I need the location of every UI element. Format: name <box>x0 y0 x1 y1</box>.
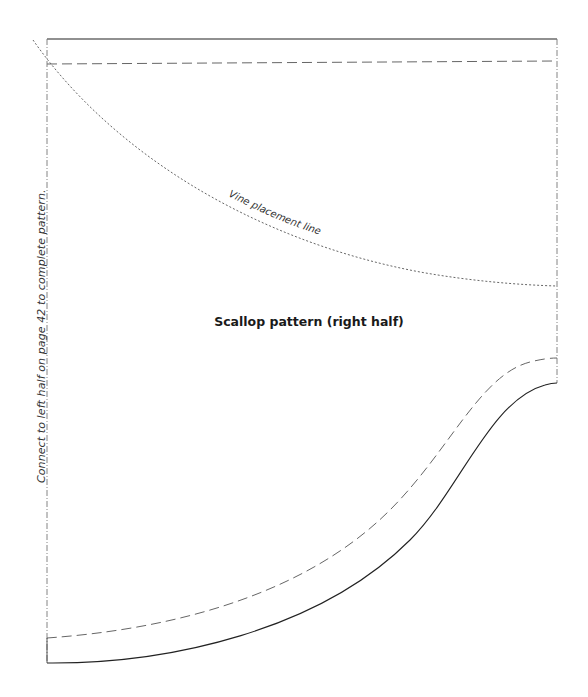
vine-placement-line <box>33 40 557 286</box>
scallop-cut-line <box>47 383 557 663</box>
pattern-drawing: Vine placement line <box>0 0 588 697</box>
pattern-title: Scallop pattern (right half) <box>214 314 404 329</box>
connect-instruction: Connect to left half on page 42 to compl… <box>35 189 48 483</box>
top-seam-line <box>47 61 557 64</box>
scallop-seam-line <box>47 358 557 638</box>
scallop-pattern-page: Vine placement line Scallop pattern (rig… <box>0 0 588 697</box>
